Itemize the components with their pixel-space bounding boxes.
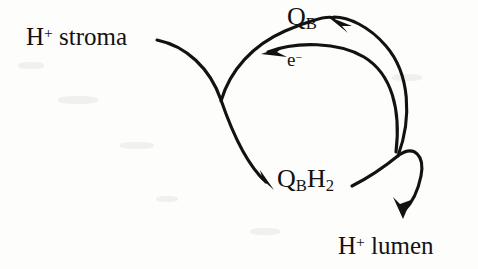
label-h-lumen-h: H — [338, 232, 356, 259]
label-h-stroma: H+ stroma — [26, 24, 127, 49]
label-h-lumen-rest: lumen — [365, 232, 434, 259]
label-h-lumen: H+ lumen — [338, 233, 434, 258]
label-electron-superscript: − — [295, 51, 302, 64]
label-qb-subscript: B — [306, 14, 317, 33]
qbh2-to-lumen-path — [352, 151, 422, 211]
label-h-stroma-h: H — [26, 23, 44, 50]
label-qb-q: Q — [287, 2, 306, 31]
label-qbh2-h: H — [307, 164, 326, 193]
label-electron: e− — [287, 50, 302, 69]
stroma-to-qbh2-path — [157, 40, 266, 182]
label-h-stroma-rest: stroma — [53, 23, 127, 50]
label-qbh2: QBH2 — [277, 166, 334, 192]
label-qbh2-subscript-b: B — [296, 176, 307, 195]
label-qb: QB — [287, 4, 317, 30]
label-qbh2-q: Q — [277, 164, 296, 193]
label-h-stroma-superscript: + — [44, 24, 53, 41]
label-qbh2-subscript-2: 2 — [326, 176, 334, 195]
cycle-return-path — [221, 17, 334, 101]
label-h-lumen-superscript: + — [356, 233, 365, 250]
figure-root: H+ stroma QB e− QBH2 H+ lumen — [0, 0, 478, 269]
